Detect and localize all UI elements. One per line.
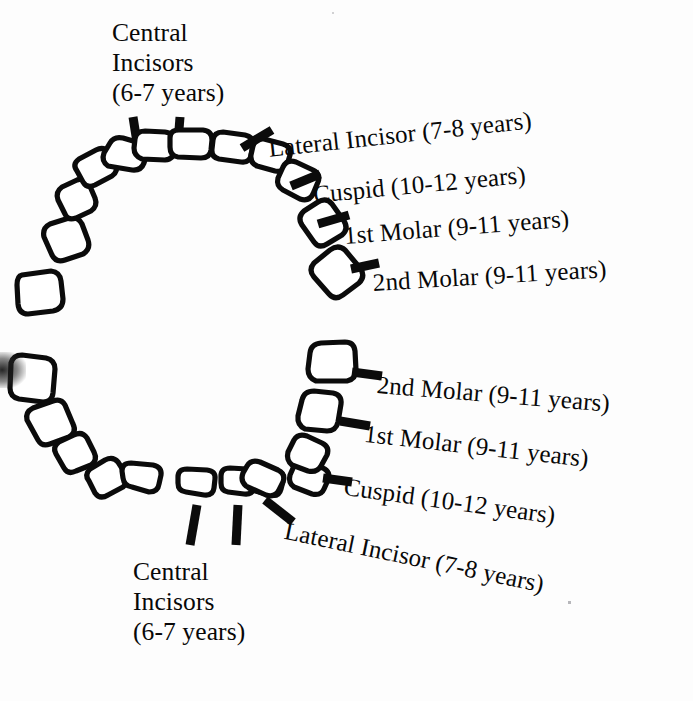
label-lower-central-incisors: Central Incisors (6-7 years) (133, 557, 245, 646)
label-lower-central-incisors-line2: Incisors (133, 587, 245, 617)
label-upper-central-incisors-line3: (6-7 years) (112, 78, 224, 108)
label-upper-central-incisors: Central Incisors (6-7 years) (112, 18, 224, 107)
label-upper-central-incisors-line1: Central (112, 18, 224, 48)
scan-speck (568, 601, 571, 604)
label-lower-central-incisors-line1: Central (133, 557, 245, 587)
leader-lower-central-incisor-left (190, 505, 197, 545)
label-lower-central-incisors-line3: (6-7 years) (133, 617, 245, 647)
scan-speck-2 (332, 12, 334, 14)
tooth-upper-central-incisor-left (170, 130, 212, 158)
tooth-upper-1st-molar-left (44, 218, 89, 261)
lower-arch-group (10, 342, 382, 545)
label-upper-central-incisors-line2: Incisors (112, 48, 224, 78)
tooth-lower-cuspid-right-2 (288, 435, 328, 471)
diagram-canvas: Central Incisors (6-7 years) Lateral Inc… (0, 0, 693, 701)
leader-lower-central-incisor-right (236, 505, 238, 545)
tooth-upper-2nd-molar-left (17, 271, 63, 314)
tooth-lower-1st-molar-right (298, 391, 341, 431)
tooth-lower-cuspid-left (122, 463, 161, 492)
tooth-lower-lateral-incisor-left (178, 469, 215, 495)
dental-arch-drawing (0, 0, 693, 701)
tooth-lower-2nd-molar-right (308, 342, 356, 381)
scan-smudge (0, 352, 26, 388)
